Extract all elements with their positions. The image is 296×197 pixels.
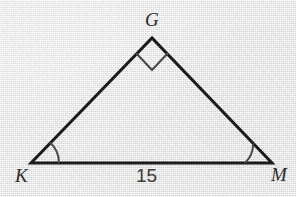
right-angle-marker-g: [136, 53, 168, 70]
vertex-label-m: M: [271, 165, 287, 184]
vertex-label-k: K: [15, 166, 28, 185]
triangle-shape: [31, 38, 272, 163]
geometry-figure: G K M 15: [0, 0, 296, 197]
vertex-label-g: G: [145, 10, 159, 29]
angle-arc-k: [50, 143, 59, 163]
angle-arc-m: [245, 144, 253, 164]
side-length-label-km: 15: [136, 166, 157, 185]
